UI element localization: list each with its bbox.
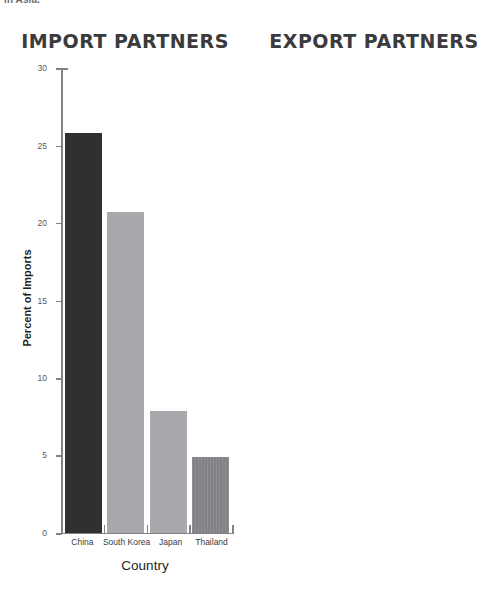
x-tick-import-2 bbox=[147, 525, 149, 534]
bars-import bbox=[62, 68, 232, 533]
x-labels-import: China South Korea Japan Thailand bbox=[62, 537, 232, 553]
charts-container: IMPORT PARTNERS 0 5 10 15 20 25 30 bbox=[0, 0, 498, 608]
chart-panel-export-partners: EXPORT PARTNERS 0 5 10 15 20 bbox=[250, 0, 498, 608]
x-tick-import-3 bbox=[189, 525, 191, 534]
x-axis-title-import: Country bbox=[40, 558, 250, 573]
plot-area-import: 0 5 10 15 20 25 30 bbox=[62, 68, 232, 533]
bar-japan[interactable] bbox=[150, 411, 187, 533]
bar-china[interactable] bbox=[65, 133, 102, 533]
bar-slot-japan bbox=[147, 68, 190, 533]
bar-slot-thailand bbox=[190, 68, 233, 533]
x-tick-import-1 bbox=[104, 525, 106, 534]
x-label-south-korea: South Korea bbox=[103, 537, 150, 553]
bar-slot-south-korea bbox=[105, 68, 148, 533]
x-tick-import-4 bbox=[232, 525, 234, 534]
y-axis-title-import: Percent of Imports bbox=[21, 243, 33, 353]
x-label-japan: Japan bbox=[150, 537, 191, 553]
x-label-thailand: Thailand bbox=[191, 537, 232, 553]
bar-thailand[interactable] bbox=[192, 457, 229, 533]
x-label-china: China bbox=[62, 537, 103, 553]
bar-slot-china bbox=[62, 68, 105, 533]
chart-title-import: IMPORT PARTNERS bbox=[0, 30, 250, 52]
chart-title-export: EXPORT PARTNERS bbox=[250, 30, 498, 52]
chart-panel-import-partners: IMPORT PARTNERS 0 5 10 15 20 25 30 bbox=[0, 0, 250, 608]
x-tick-import-0 bbox=[61, 525, 63, 534]
bar-south-korea[interactable] bbox=[107, 212, 144, 533]
